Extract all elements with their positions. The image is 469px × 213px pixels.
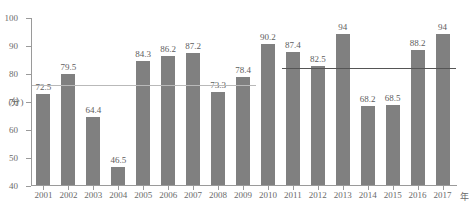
bar[interactable]	[361, 106, 375, 185]
y-axis-tick: 90	[26, 46, 31, 47]
bar-value-label: 46.5	[110, 155, 126, 165]
bar-value-label: 79.5	[61, 62, 77, 72]
x-axis-tick-label: 2015	[384, 190, 402, 200]
bar-value-label: 84.3	[135, 49, 151, 59]
bar[interactable]	[211, 92, 225, 185]
x-axis-tick-label: 2016	[409, 190, 427, 200]
y-axis-tick-label: 50	[9, 153, 18, 163]
bar[interactable]	[261, 44, 275, 185]
y-axis-tick-label: 90	[9, 41, 18, 51]
bar[interactable]	[286, 52, 300, 185]
x-axis-tick-label: 2006	[159, 190, 177, 200]
plot-area: 40506070809010072.5200179.5200264.420034…	[31, 18, 455, 186]
reference-line-late	[282, 68, 456, 69]
y-axis-tick: 100	[26, 18, 31, 19]
x-axis-tick-label: 2010	[259, 190, 277, 200]
x-axis-tick-label: 2012	[309, 190, 327, 200]
bar-value-label: 68.5	[385, 93, 401, 103]
bar-value-label: 86.2	[160, 44, 176, 54]
bar[interactable]	[86, 117, 100, 185]
y-axis-tick-label: 60	[9, 125, 18, 135]
x-axis-tick-label: 2009	[234, 190, 252, 200]
x-axis-unit-label: 年	[460, 190, 469, 203]
bar-value-label: 94	[338, 22, 347, 32]
bar[interactable]	[186, 53, 200, 185]
bar-value-label: 90.2	[260, 32, 276, 42]
bar-value-label: 64.4	[85, 105, 101, 115]
x-axis-tick-label: 2003	[84, 190, 102, 200]
bar-value-label: 68.2	[360, 94, 376, 104]
y-axis-tick-label: 40	[9, 181, 18, 191]
bar-value-label: 88.2	[410, 38, 426, 48]
y-axis-tick: 50	[26, 158, 31, 159]
bar[interactable]	[311, 66, 325, 185]
bar[interactable]	[336, 34, 350, 185]
x-axis-tick-label: 2007	[184, 190, 202, 200]
bar[interactable]	[61, 74, 75, 185]
bar[interactable]	[36, 94, 50, 185]
x-axis-tick-label: 2014	[359, 190, 377, 200]
x-axis-tick-label: 2005	[134, 190, 152, 200]
x-axis-tick-label: 2001	[34, 190, 52, 200]
bar-value-label: 87.4	[285, 40, 301, 50]
y-axis-tick: 40	[26, 186, 31, 187]
bar[interactable]	[236, 77, 250, 185]
bar[interactable]	[136, 61, 150, 185]
y-axis-tick-label: 70	[9, 97, 18, 107]
bar-value-label: 72.5	[36, 82, 52, 92]
y-axis-tick: 80	[26, 74, 31, 75]
bar[interactable]	[436, 34, 450, 185]
reference-line-early	[32, 85, 256, 86]
bar-value-label: 78.4	[235, 65, 251, 75]
bar[interactable]	[386, 105, 400, 185]
x-axis-tick-label: 2004	[109, 190, 127, 200]
x-axis-tick-label: 2017	[434, 190, 452, 200]
x-axis-tick-label: 2013	[334, 190, 352, 200]
y-axis-line	[31, 18, 32, 186]
y-axis-tick: 70	[26, 102, 31, 103]
bar-value-label: 87.2	[185, 41, 201, 51]
y-axis-tick: 60	[26, 130, 31, 131]
bar[interactable]	[111, 167, 125, 185]
bar-value-label: 82.5	[310, 54, 326, 64]
y-axis-tick-label: 100	[5, 13, 19, 23]
bar[interactable]	[161, 56, 175, 185]
y-axis-tick-label: 80	[9, 69, 18, 79]
bar-value-label: 94	[438, 22, 447, 32]
x-axis-tick-label: 2008	[209, 190, 227, 200]
x-axis-tick-label: 2011	[284, 190, 302, 200]
bar[interactable]	[411, 50, 425, 185]
x-axis-tick-label: 2002	[59, 190, 77, 200]
